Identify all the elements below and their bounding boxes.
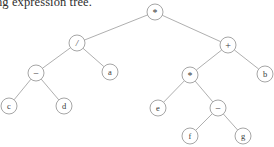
- node-label: +: [225, 40, 231, 51]
- tree-node-minus[interactable]: −: [28, 65, 44, 81]
- node-label: −: [33, 68, 39, 79]
- tree-node-g[interactable]: g: [235, 128, 251, 144]
- expression-tree-figure: ng expression tree. */+−a*bcde−fg: [0, 0, 274, 147]
- tree-node-slash[interactable]: /: [69, 35, 85, 51]
- tree-edge: [14, 79, 31, 100]
- tree-node-c[interactable]: c: [1, 98, 17, 114]
- tree-edge: [223, 114, 237, 130]
- tree-edge: [196, 114, 213, 131]
- node-label: b: [263, 69, 267, 79]
- tree-node-star[interactable]: *: [147, 4, 163, 20]
- tree-edge: [162, 15, 220, 41]
- tree-node-plus[interactable]: +: [220, 37, 236, 53]
- tree-node-f[interactable]: f: [182, 128, 198, 144]
- tree-edge: [195, 81, 213, 102]
- node-label: *: [153, 7, 158, 18]
- node-label: *: [188, 70, 193, 81]
- node-label: f: [189, 131, 192, 141]
- node-label: a: [108, 67, 112, 77]
- tree-node-minus[interactable]: −: [210, 100, 226, 116]
- tree-edge: [42, 48, 70, 69]
- tree-canvas: */+−a*bcde−fg: [0, 0, 274, 147]
- node-layer: */+−a*bcde−fg: [1, 4, 273, 144]
- tree-node-d[interactable]: d: [56, 98, 72, 114]
- tree-edge: [164, 81, 185, 103]
- tree-node-e[interactable]: e: [150, 100, 166, 116]
- tree-node-star[interactable]: *: [182, 67, 198, 83]
- tree-edge: [83, 48, 104, 66]
- tree-edge: [196, 50, 221, 70]
- node-label: c: [7, 101, 11, 111]
- node-label: e: [156, 103, 160, 113]
- tree-node-b[interactable]: b: [257, 66, 273, 82]
- tree-edge: [41, 79, 59, 100]
- tree-edge: [234, 50, 258, 69]
- node-label: −: [215, 103, 221, 114]
- tree-edge: [84, 15, 147, 40]
- tree-node-a[interactable]: a: [102, 64, 118, 80]
